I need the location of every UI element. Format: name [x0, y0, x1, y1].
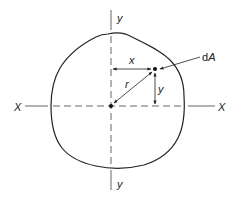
x-distance-label: x — [128, 54, 135, 66]
x-axis-right-label: X — [217, 101, 226, 113]
x-axis-left-label: X — [13, 101, 22, 113]
y-axis-bottom-label: y — [116, 178, 124, 190]
dA-leader-arrow — [160, 57, 200, 69]
y-distance-label: y — [157, 83, 165, 95]
y-axis-top-label: y — [116, 12, 124, 24]
radius-label: r — [125, 78, 130, 90]
element-dA-label: dA — [202, 51, 215, 63]
area-moment-diagram: X X y y x y r dA — [0, 0, 237, 200]
radius-arrow — [114, 72, 152, 103]
origin-point — [109, 104, 113, 108]
element-dA-point — [153, 67, 157, 71]
